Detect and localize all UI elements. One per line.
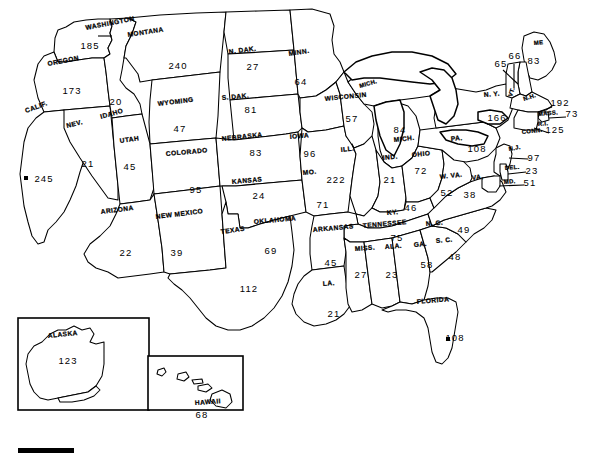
state-value-id: 20 bbox=[110, 96, 123, 107]
state-shape-utah[interactable] bbox=[112, 114, 154, 204]
leader-line-new-jersey bbox=[509, 158, 528, 159]
state-value-mt: 240 bbox=[168, 60, 187, 71]
city-dot-california bbox=[24, 176, 28, 180]
state-value-nm: 39 bbox=[171, 247, 184, 258]
state-value-fl: 108 bbox=[445, 332, 464, 343]
state-name-label-al: ALA. bbox=[385, 242, 403, 250]
state-value-ne: 83 bbox=[250, 147, 263, 158]
state-name-label-ky: KY. bbox=[386, 208, 398, 216]
state-value-mi: 84 bbox=[394, 124, 407, 135]
state-value-nv: 21 bbox=[82, 158, 95, 169]
state-value-vt: 66 bbox=[509, 50, 522, 61]
state-value-nd: 27 bbox=[247, 61, 260, 72]
state-name-label-la: LA. bbox=[322, 279, 335, 287]
state-value-ca: 245 bbox=[34, 173, 53, 184]
state-value-wa: 185 bbox=[80, 40, 99, 51]
state-value-va: 38 bbox=[464, 189, 477, 200]
state-value-in: 21 bbox=[384, 174, 397, 185]
us-state-map-page: WASHINGTON185OREGON173IDAHO20MONTANA240W… bbox=[0, 0, 590, 454]
state-name-label-nj: N.J. bbox=[508, 144, 521, 152]
state-shape-new-mexico[interactable] bbox=[154, 186, 226, 274]
state-value-pa: 108 bbox=[467, 143, 486, 154]
state-value-mn: 64 bbox=[295, 76, 308, 87]
state-shape-colorado[interactable] bbox=[150, 138, 220, 194]
state-value-ks: 24 bbox=[253, 190, 266, 201]
leader-line-rhode-island bbox=[549, 117, 566, 118]
state-value-co: 95 bbox=[190, 184, 203, 195]
state-value-sd: 81 bbox=[245, 104, 258, 115]
state-shape-florida[interactable] bbox=[382, 298, 458, 364]
state-value-de: 23 bbox=[526, 165, 539, 176]
state-name-label-il: ILL. bbox=[340, 145, 354, 153]
state-value-il: 222 bbox=[326, 174, 345, 185]
state-value-tn: 75 bbox=[391, 232, 404, 243]
state-value-ny: 166 bbox=[487, 112, 506, 123]
leader-line-delaware bbox=[508, 172, 526, 174]
state-name-label-ny: N. Y. bbox=[483, 90, 500, 98]
state-name-label-md: MD. bbox=[504, 178, 516, 185]
state-name-label-sc: S. C. bbox=[435, 236, 452, 244]
state-value-nc: 49 bbox=[458, 224, 471, 235]
state-value-ri: 73 bbox=[566, 108, 579, 119]
lower-48-states bbox=[20, 9, 556, 364]
state-name-label-me: ME bbox=[534, 39, 544, 46]
state-value-wi: 57 bbox=[346, 113, 359, 124]
state-value-la: 21 bbox=[328, 308, 341, 319]
state-value-md: 51 bbox=[524, 177, 537, 188]
state-value-ar: 45 bbox=[325, 257, 338, 268]
map-canvas: WASHINGTON185OREGON173IDAHO20MONTANA240W… bbox=[0, 0, 590, 454]
scale-bar bbox=[18, 448, 74, 453]
state-value-nj: 97 bbox=[528, 152, 541, 163]
state-value-ut: 45 bbox=[124, 161, 137, 172]
state-value-ga: 58 bbox=[421, 259, 434, 270]
state-value-ok: 69 bbox=[265, 245, 278, 256]
state-value-nh: 65 bbox=[495, 58, 508, 69]
state-value-wy: 47 bbox=[174, 123, 187, 134]
state-value-oh: 72 bbox=[415, 165, 428, 176]
state-name-label-va: VA. bbox=[471, 173, 483, 181]
state-name-label-ct: CONN. bbox=[521, 127, 542, 135]
state-value-or: 173 bbox=[62, 85, 81, 96]
state-value-mo: 71 bbox=[317, 199, 330, 210]
state-value-ia: 96 bbox=[304, 148, 317, 159]
state-name-label-de: DEL. bbox=[505, 164, 520, 171]
state-name-label-mo: MO. bbox=[302, 168, 316, 176]
state-shape-louisiana[interactable] bbox=[292, 266, 350, 326]
state-value-wv: 52 bbox=[441, 187, 454, 198]
state-value-tx: 112 bbox=[240, 283, 258, 294]
state-name-label-ma: MASS. bbox=[538, 109, 559, 117]
state-value-sc: 48 bbox=[449, 251, 462, 262]
state-value-ak: 123 bbox=[58, 355, 77, 366]
state-value-az: 22 bbox=[120, 247, 133, 258]
state-value-ms: 27 bbox=[355, 269, 368, 280]
state-value-al: 23 bbox=[386, 269, 399, 280]
state-value-ma: 192 bbox=[550, 97, 569, 108]
state-value-ct: 125 bbox=[545, 124, 564, 135]
state-value-hi: 68 bbox=[196, 409, 209, 420]
state-shape-maryland[interactable] bbox=[482, 176, 500, 192]
state-name-label-pa: PA. bbox=[450, 134, 462, 142]
state-value-ky: 46 bbox=[405, 202, 418, 213]
state-name-label-ga: GA. bbox=[413, 240, 427, 248]
state-name-label-ms: MISS. bbox=[355, 244, 376, 252]
state-value-me: 83 bbox=[528, 55, 541, 66]
state-shape-montana[interactable] bbox=[124, 12, 226, 82]
hawaii-island-molokai[interactable] bbox=[192, 379, 203, 384]
